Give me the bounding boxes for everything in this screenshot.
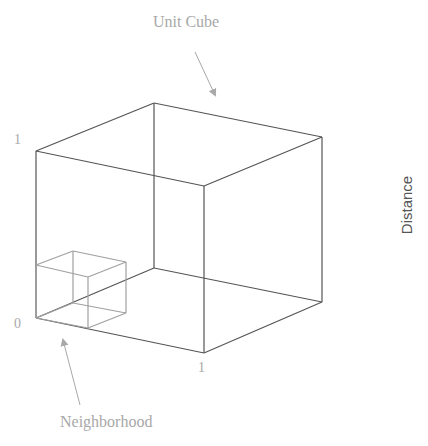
distance-label: Distance: [398, 176, 415, 234]
unit-cube-diagram: Unit Cube Neighborhood 1 0 1 Distance: [0, 0, 428, 446]
neighborhood-arrow: [63, 340, 80, 405]
tick-label-top-left: 1: [14, 132, 21, 148]
neighborhood-cube: [36, 251, 126, 328]
tick-label-origin: 0: [14, 316, 21, 332]
unit-cube-arrow: [195, 52, 215, 95]
tick-label-bottom-right: 1: [198, 360, 205, 376]
unit-cube-label: Unit Cube: [153, 13, 219, 31]
unit-cube: [36, 103, 322, 353]
cube-drawing: [0, 0, 428, 446]
neighborhood-label: Neighborhood: [60, 413, 152, 431]
